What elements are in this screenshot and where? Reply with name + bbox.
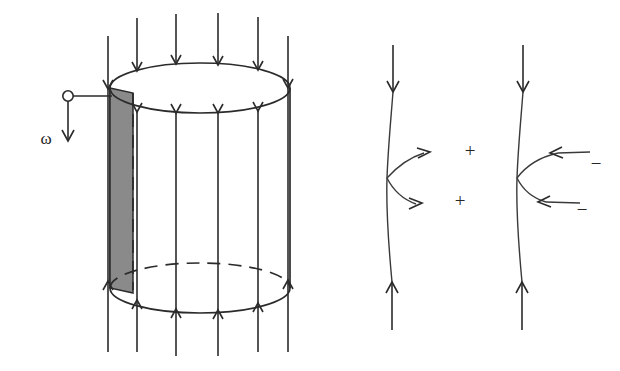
cylinder-top-ellipse bbox=[110, 63, 290, 113]
field-line-negative-group: − − bbox=[516, 45, 601, 330]
axis-circle-icon bbox=[63, 91, 73, 101]
left-panel-cylinder-group: ω bbox=[40, 13, 293, 356]
field-lines-upper bbox=[108, 13, 288, 88]
branch-curve-positive-upper bbox=[387, 153, 424, 178]
positive-sign-lower: + bbox=[455, 190, 466, 211]
branch-curve-positive-lower bbox=[387, 178, 416, 204]
right-panel-charges-group: + + − − bbox=[386, 45, 601, 330]
branch-curve-negative-upper bbox=[517, 153, 558, 178]
physics-diagram: ω + + bbox=[0, 0, 620, 371]
figure-root: ω + + bbox=[0, 0, 620, 371]
branch-tail-negative-lower bbox=[546, 202, 580, 203]
branch-tail-negative-upper bbox=[558, 152, 590, 153]
field-line-positive-group: + + bbox=[386, 45, 475, 330]
negative-sign-lower: − bbox=[577, 199, 588, 220]
shaded-strip bbox=[110, 88, 133, 293]
negative-sign-upper: − bbox=[591, 153, 602, 174]
angular-velocity-leader: ω bbox=[40, 91, 112, 148]
positive-sign-upper: + bbox=[465, 140, 476, 161]
field-lines-lower bbox=[137, 300, 258, 356]
omega-label: ω bbox=[40, 129, 51, 148]
field-lines-interior bbox=[137, 111, 258, 310]
branch-curve-negative-lower bbox=[517, 178, 546, 202]
top-front-rim-arrowheads bbox=[132, 102, 263, 113]
